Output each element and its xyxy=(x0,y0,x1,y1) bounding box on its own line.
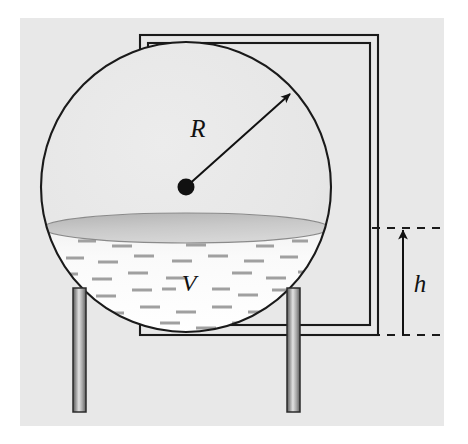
volume-label: V xyxy=(182,270,199,296)
liquid-surface-ellipse xyxy=(43,213,329,243)
support-leg-left xyxy=(73,288,86,412)
support-leg-right xyxy=(287,288,300,412)
height-label: h xyxy=(414,270,427,297)
radius-label: R xyxy=(189,115,205,142)
spherical-tank-diagram: R V h xyxy=(0,0,468,444)
figure-container: R V h xyxy=(0,0,468,444)
sphere-center-dot xyxy=(178,179,195,196)
